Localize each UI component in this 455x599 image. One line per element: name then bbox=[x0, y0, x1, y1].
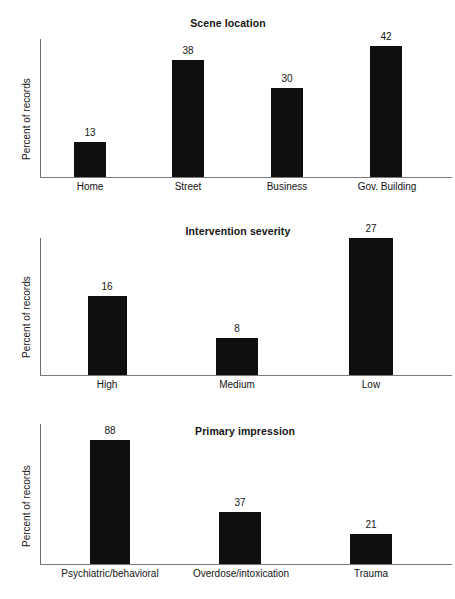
bar-value-overdose-intoxication: 37 bbox=[220, 497, 260, 508]
chart-title: Primary impression bbox=[180, 425, 310, 437]
bar-value-trauma: 21 bbox=[351, 519, 391, 530]
bar-overdose-intoxication bbox=[219, 512, 261, 564]
category-label-overdose-intoxication: Overdose/intoxication bbox=[173, 568, 309, 579]
bar-value-medium: 8 bbox=[217, 323, 257, 334]
category-label-medium: Medium bbox=[202, 379, 272, 390]
x-axis-line bbox=[40, 375, 452, 376]
bar-trauma bbox=[350, 534, 392, 564]
chart-title: Intervention severity bbox=[168, 225, 308, 237]
bar-medium bbox=[216, 338, 258, 375]
bar-high bbox=[88, 296, 127, 375]
y-axis-line bbox=[40, 424, 41, 564]
category-label-high: High bbox=[72, 379, 142, 390]
bar-low bbox=[349, 238, 393, 375]
category-label-low: Low bbox=[336, 379, 406, 390]
category-label-psychiatric-behavioral: Psychiatric/behavioral bbox=[42, 568, 178, 579]
y-axis-line bbox=[40, 238, 41, 376]
bar-psychiatric-behavioral bbox=[90, 440, 130, 564]
bar-value-low: 27 bbox=[351, 223, 391, 234]
chart-panel-primary-impression: Primary impression Percent of records 88… bbox=[0, 0, 455, 199]
y-axis-label: Percent of records bbox=[21, 276, 32, 358]
bar-value-psychiatric-behavioral: 88 bbox=[90, 425, 130, 436]
x-axis-line bbox=[40, 564, 452, 565]
category-label-trauma: Trauma bbox=[336, 568, 406, 579]
y-axis-label: Percent of records bbox=[21, 465, 32, 547]
bar-value-high: 16 bbox=[87, 281, 127, 292]
